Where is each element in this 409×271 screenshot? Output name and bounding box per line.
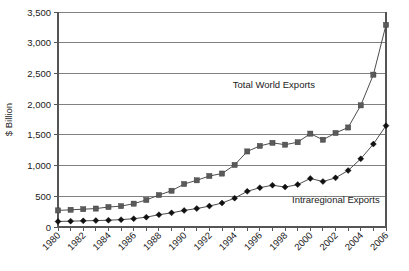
data-point-square — [320, 137, 325, 142]
data-point-diamond — [307, 175, 313, 181]
annotation-intraregional-exports: Intraregional Exports — [292, 194, 380, 205]
x-tick-label: 1990 — [166, 230, 189, 253]
data-point-square — [118, 204, 123, 209]
data-point-diamond — [131, 216, 137, 222]
y-tick-label: 500 — [35, 191, 51, 202]
y-tick-label: 3,500 — [27, 7, 51, 18]
data-point-diamond — [269, 182, 275, 188]
data-point-square — [282, 142, 287, 147]
data-point-diamond — [383, 123, 389, 129]
data-point-square — [106, 204, 111, 209]
data-point-diamond — [194, 206, 200, 212]
series-line-total-world-exports — [58, 25, 386, 211]
data-point-square — [144, 197, 149, 202]
data-point-diamond — [244, 188, 250, 194]
x-tick-label: 2006 — [368, 230, 391, 253]
data-point-diamond — [68, 218, 74, 224]
x-tick-label: 2002 — [317, 230, 340, 253]
data-point-square — [383, 22, 388, 27]
y-tick-label: 2,500 — [27, 68, 51, 79]
data-point-diamond — [219, 200, 225, 206]
data-point-square — [333, 130, 338, 135]
data-point-square — [270, 140, 275, 145]
data-point-square — [245, 149, 250, 154]
data-point-square — [257, 143, 262, 148]
data-point-diamond — [80, 218, 86, 224]
y-tick-label: 0 — [46, 222, 51, 233]
data-point-square — [182, 181, 187, 186]
data-point-diamond — [143, 214, 149, 220]
data-point-diamond — [206, 203, 212, 209]
data-point-diamond — [181, 207, 187, 213]
data-point-square — [68, 207, 73, 212]
x-tick-label: 1986 — [115, 230, 138, 253]
annotation-total-world-exports: Total World Exports — [233, 79, 315, 90]
data-point-diamond — [295, 182, 301, 188]
data-point-diamond — [257, 185, 263, 191]
y-tick-label: 2,000 — [27, 99, 51, 110]
x-tick-label: 1982 — [65, 230, 88, 253]
line-chart: 05001,0001,5002,0002,5003,0003,500198019… — [0, 0, 409, 271]
x-tick-label: 1984 — [90, 230, 113, 253]
y-tick-label: 3,000 — [27, 37, 51, 48]
data-point-square — [194, 178, 199, 183]
y-tick-label: 1,000 — [27, 160, 51, 171]
data-point-square — [156, 192, 161, 197]
x-tick-label: 1994 — [216, 230, 239, 253]
data-point-square — [219, 171, 224, 176]
data-point-diamond — [118, 217, 124, 223]
chart-container: 05001,0001,5002,0002,5003,0003,500198019… — [0, 0, 409, 271]
x-tick-label: 2004 — [342, 230, 365, 253]
data-point-square — [371, 72, 376, 77]
data-point-square — [308, 131, 313, 136]
x-tick-label: 1980 — [40, 230, 63, 253]
data-point-diamond — [333, 175, 339, 181]
data-point-square — [207, 173, 212, 178]
data-point-square — [93, 206, 98, 211]
data-point-square — [81, 207, 86, 212]
data-point-diamond — [156, 212, 162, 218]
data-point-diamond — [93, 218, 99, 224]
data-point-square — [55, 208, 60, 213]
data-point-diamond — [105, 217, 111, 223]
data-point-square — [346, 125, 351, 130]
data-point-square — [232, 162, 237, 167]
data-point-square — [131, 201, 136, 206]
y-axis-title: $ Billion — [3, 103, 14, 136]
data-point-square — [295, 140, 300, 145]
data-point-diamond — [320, 179, 326, 185]
data-point-square — [358, 103, 363, 108]
x-tick-label: 1988 — [141, 230, 164, 253]
y-tick-label: 1,500 — [27, 129, 51, 140]
data-point-diamond — [282, 184, 288, 190]
x-tick-label: 1998 — [267, 230, 290, 253]
x-tick-label: 1996 — [242, 230, 265, 253]
data-point-diamond — [55, 218, 61, 224]
data-point-diamond — [169, 210, 175, 216]
x-tick-label: 1992 — [191, 230, 214, 253]
x-tick-label: 2000 — [292, 230, 315, 253]
data-point-square — [169, 188, 174, 193]
